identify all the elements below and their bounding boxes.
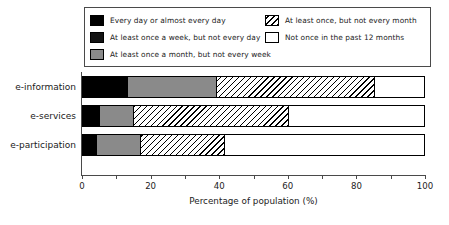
category-label-e-services: e-services — [30, 105, 76, 127]
plot-area: 020406080100 e-informatione-servicese-pa… — [82, 76, 425, 171]
bar-segment — [83, 135, 97, 155]
stacked-bar-chart: Every day or almost every day At least o… — [0, 0, 449, 225]
bar-track — [82, 134, 425, 156]
x-tick-20 — [151, 175, 152, 179]
bar-segment — [217, 77, 375, 97]
x-tick-10 — [116, 175, 117, 179]
bar-segment — [225, 135, 425, 155]
category-label-e-participation: e-participation — [10, 134, 76, 156]
x-tick-label-40: 40 — [214, 181, 225, 191]
x-tick-80 — [356, 175, 357, 179]
x-tick-100 — [425, 175, 426, 179]
legend-swatch-weekly — [90, 32, 104, 43]
x-tick-30 — [185, 175, 186, 179]
legend-label-every-day: Every day or almost every day — [110, 16, 226, 25]
bar-segment — [128, 77, 217, 97]
bar-segment — [375, 77, 425, 97]
legend-label-at-least-once: At least once, but not every month — [285, 16, 417, 25]
bar-row: e-participation — [82, 134, 425, 156]
bar-segment — [83, 77, 128, 97]
bar-track — [82, 76, 425, 98]
x-tick-label-60: 60 — [282, 181, 293, 191]
legend-label-not-once: Not once in the past 12 months — [285, 33, 404, 42]
legend-swatch-monthly — [90, 49, 104, 60]
x-axis-title: Percentage of population (%) — [82, 196, 425, 206]
bar-track — [82, 105, 425, 127]
legend-item-every-day: Every day or almost every day — [90, 12, 271, 29]
x-tick-label-100: 100 — [417, 181, 433, 191]
legend-item-at-least-once: At least once, but not every month — [265, 12, 417, 29]
legend-swatch-not-once — [265, 32, 279, 43]
legend-label-weekly: At least once a week, but not every day — [110, 33, 260, 42]
legend-item-not-once: Not once in the past 12 months — [265, 29, 417, 46]
legend-item-monthly: At least once a month, but not every wee… — [90, 46, 271, 63]
bar-segment — [83, 106, 100, 126]
bar-segment — [100, 106, 134, 126]
x-tick-label-80: 80 — [351, 181, 362, 191]
x-tick-90 — [391, 175, 392, 179]
x-tick-label-0: 0 — [79, 181, 84, 191]
legend-label-monthly: At least once a month, but not every wee… — [110, 50, 271, 59]
bar-row: e-information — [82, 76, 425, 98]
legend-swatch-every-day — [90, 15, 104, 26]
bar-segment — [134, 106, 288, 126]
bar-segment — [141, 135, 225, 155]
x-tick-label-20: 20 — [145, 181, 156, 191]
x-tick-0 — [82, 175, 83, 179]
legend-column-right: At least once, but not every month Not o… — [265, 12, 417, 46]
bar-segment — [97, 135, 142, 155]
bar-segment — [289, 106, 425, 126]
x-tick-60 — [288, 175, 289, 179]
bar-row: e-services — [82, 105, 425, 127]
chart-legend: Every day or almost every day At least o… — [84, 7, 431, 67]
category-label-e-information: e-information — [15, 76, 76, 98]
x-tick-70 — [322, 175, 323, 179]
x-tick-50 — [254, 175, 255, 179]
legend-item-weekly: At least once a week, but not every day — [90, 29, 271, 46]
x-tick-40 — [219, 175, 220, 179]
legend-column-left: Every day or almost every day At least o… — [90, 12, 271, 63]
legend-swatch-at-least-once — [265, 15, 279, 26]
